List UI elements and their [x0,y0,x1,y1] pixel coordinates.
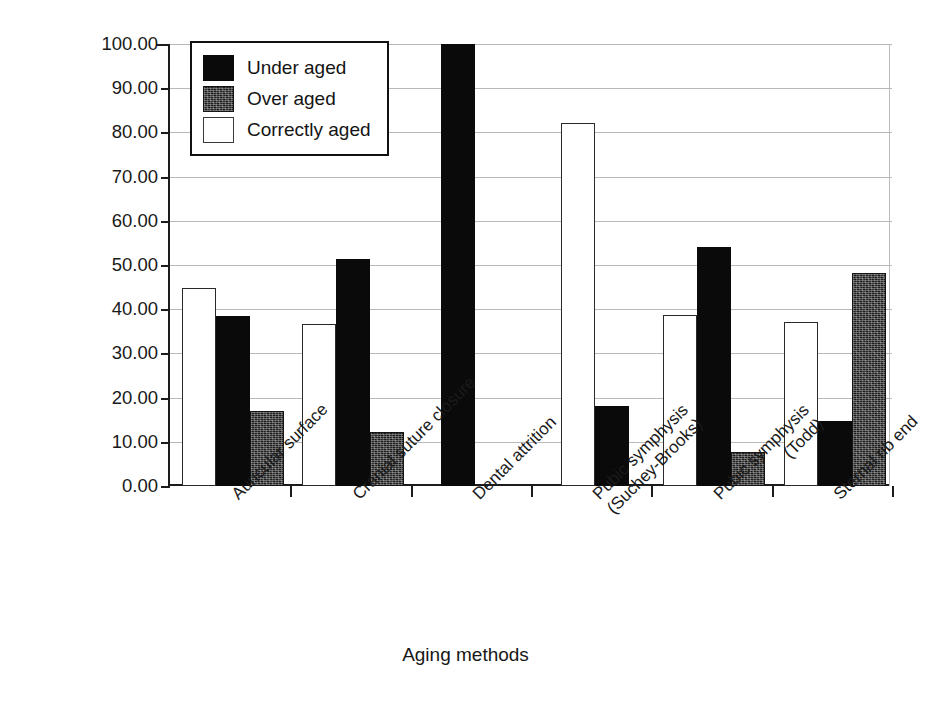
y-tick-label: 70.00 [46,167,158,186]
legend-swatch-under-aged [203,55,234,81]
legend-item[interactable]: Over aged [203,83,371,114]
y-tick-label: 10.00 [46,433,158,452]
chart-legend: Under agedOver agedCorrectly aged [190,41,389,156]
bar-under[interactable] [216,316,250,486]
bar-correct[interactable] [561,123,595,486]
x-axis-title: Aging methods [0,644,931,666]
y-tick-label: 50.00 [46,256,158,275]
y-tick-label: 0.00 [46,477,158,496]
y-tick-mark [157,44,170,46]
y-tick-mark [161,221,170,223]
y-tick-mark [161,265,170,267]
legend-swatch-over-aged [203,86,234,112]
legend-swatch-correctly-aged [203,117,234,143]
y-tick-label: 40.00 [46,300,158,319]
bar-under[interactable] [336,259,370,486]
y-tick-mark [161,177,170,179]
y-tick-mark [161,353,170,355]
bar-correct[interactable] [182,288,216,486]
x-axis-category-labels: Auricular surfaceCranial suture closureD… [168,490,898,630]
y-tick-label: 20.00 [46,388,158,407]
y-tick-label: 60.00 [46,212,158,231]
y-tick-mark [161,88,170,90]
y-tick-label: 90.00 [46,79,158,98]
legend-item-label: Correctly aged [247,119,371,141]
legend-item[interactable]: Under aged [203,52,371,83]
legend-item-label: Under aged [247,57,346,79]
y-tick-label: 100.00 [46,35,158,54]
legend-item[interactable]: Correctly aged [203,114,371,145]
y-tick-label: 30.00 [46,344,158,363]
y-tick-label: 80.00 [46,123,158,142]
y-axis-tick-labels: 0.0010.0020.0030.0040.0050.0060.0070.008… [46,44,158,486]
legend-item-label: Over aged [247,88,336,110]
y-tick-mark [161,442,170,444]
bar-under[interactable] [697,247,731,486]
bar-chart-figure: Percentage accuracy (%) 0.0010.0020.0030… [0,0,931,701]
y-tick-mark [161,132,170,134]
y-tick-mark [161,486,170,488]
y-tick-mark [161,309,170,311]
y-tick-mark [161,398,170,400]
